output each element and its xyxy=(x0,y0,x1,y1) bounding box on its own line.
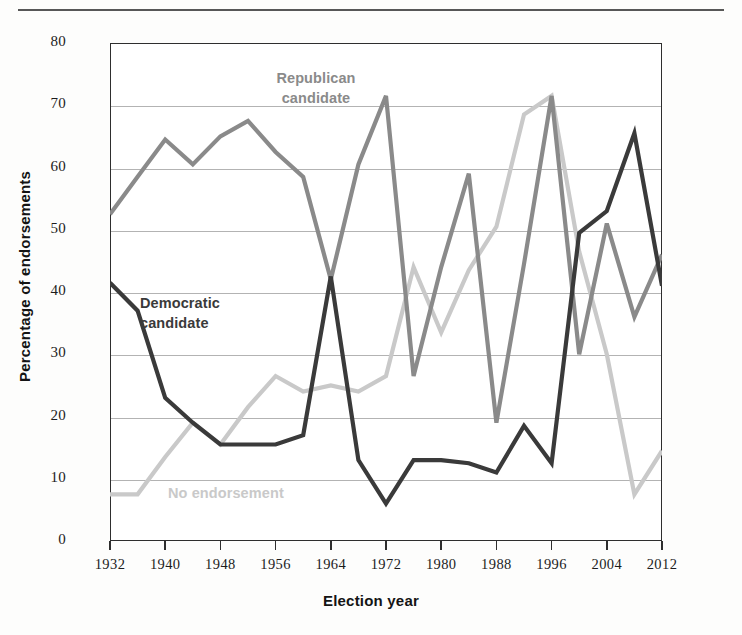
page-top-rule xyxy=(18,9,724,11)
x-tick-1988 xyxy=(496,541,498,550)
series-label-republican: Republican candidate xyxy=(256,68,376,108)
series-label-no-endorsement: No endorsement xyxy=(168,483,348,503)
x-tick-1996 xyxy=(551,541,553,550)
x-tick-1948 xyxy=(220,541,222,550)
series-label-democratic: Democratic candidate xyxy=(140,293,270,333)
x-tick-1964 xyxy=(330,541,332,550)
x-tick-1980 xyxy=(440,541,442,550)
series-lines xyxy=(110,43,662,541)
x-axis-title: Election year xyxy=(0,592,742,609)
y-tick-label-80: 80 xyxy=(20,33,66,50)
x-tick-1932 xyxy=(109,541,111,550)
y-axis-title: Percentage of endorsements xyxy=(16,67,33,487)
x-tick-1940 xyxy=(164,541,166,550)
x-tick-1972 xyxy=(385,541,387,550)
y-tick-label-0: 0 xyxy=(20,531,66,548)
chart-page: 01020304050607080 Percentage of endorsem… xyxy=(0,0,742,635)
x-tick-1956 xyxy=(275,541,277,550)
x-tick-2012 xyxy=(661,541,663,550)
x-tick-label-2012: 2012 xyxy=(627,556,697,573)
x-tick-2004 xyxy=(606,541,608,550)
